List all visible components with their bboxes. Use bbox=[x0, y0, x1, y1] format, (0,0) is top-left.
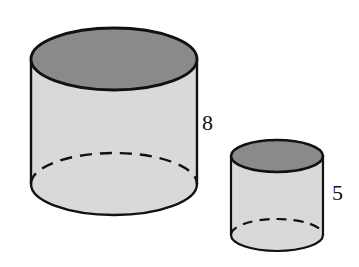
large-cylinder-top-face bbox=[31, 28, 197, 90]
small-cylinder bbox=[231, 140, 323, 251]
large-cylinder bbox=[31, 28, 197, 215]
small-cylinder-top-face bbox=[231, 140, 323, 172]
large-cylinder-height-label: 8 bbox=[202, 112, 213, 134]
cylinders-figure: 8 5 bbox=[0, 0, 359, 267]
cylinders-illustration bbox=[0, 0, 359, 267]
small-cylinder-height-label: 5 bbox=[332, 182, 343, 204]
